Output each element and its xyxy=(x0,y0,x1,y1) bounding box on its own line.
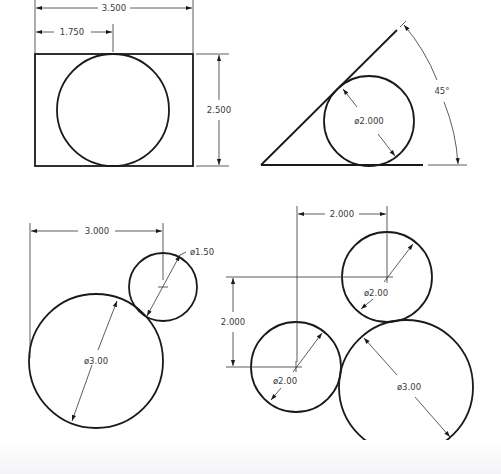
diameter-leader-left xyxy=(271,388,281,400)
circle-in-rectangle xyxy=(57,54,169,166)
dim-label-1750: 1.750 xyxy=(60,27,84,37)
diameter-line-large-upper xyxy=(364,338,397,375)
panel-three-tangent-circles: 2.000 2.000 ø2.00 ø2.00 ø3.00 xyxy=(221,206,473,454)
diameter-label-large: ø3.00 xyxy=(397,382,421,392)
dim-label-2500: 2.500 xyxy=(207,105,231,115)
page-bottom-fade xyxy=(0,440,501,474)
diameter-line-large-upper xyxy=(98,301,117,350)
diameter-line-large-lower xyxy=(415,397,450,437)
dim-label-2000-horizontal: 2.000 xyxy=(330,209,354,219)
diameter-label-300: ø3.00 xyxy=(84,356,108,366)
diameter-label-left: ø2.00 xyxy=(273,376,297,386)
panel-tangent-circles-pair: 3.000 ø1.50 ø3.00 xyxy=(29,223,214,428)
dim-label-2000-vertical: 2.000 xyxy=(221,317,245,327)
diameter-label-upper: ø2.00 xyxy=(364,288,388,298)
diameter-leader-lower xyxy=(378,134,395,156)
diameter-line-upper xyxy=(384,244,413,282)
leader-small xyxy=(180,252,186,255)
dim-label-3500: 3.500 xyxy=(102,3,126,13)
panel-triangle-with-circle: 45° ø2.000 xyxy=(261,21,467,166)
panel-rectangle-with-circle: 3.500 1.750 2.500 xyxy=(35,0,231,166)
diameter-label-150: ø1.50 xyxy=(190,247,214,257)
angle-arc-upper xyxy=(404,25,437,80)
triangle-hypotenuse xyxy=(261,30,397,165)
angle-label-45: 45° xyxy=(434,86,449,96)
diameter-line-large-lower xyxy=(72,365,92,421)
diameter-line-small xyxy=(147,255,180,316)
diameter-leader-upper xyxy=(343,89,357,107)
dim-label-3000: 3.000 xyxy=(85,226,109,236)
diameter-leader-upper xyxy=(361,299,373,309)
technical-drawing: 3.500 1.750 2.500 45° ø2.000 xyxy=(0,0,501,474)
angle-arc-lower xyxy=(444,102,458,164)
diameter-label-2000: ø2.000 xyxy=(354,116,384,126)
